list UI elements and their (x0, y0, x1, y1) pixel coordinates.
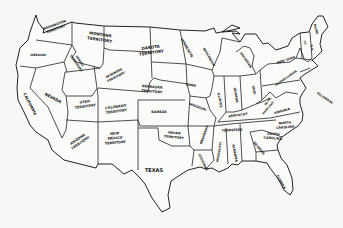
state-label-text: KANSAS (151, 110, 167, 114)
label-kansas: KANSAS (151, 110, 167, 114)
label-texas: TEXAS (145, 167, 164, 173)
label-oregon: OREGON (30, 53, 46, 57)
us-territories-map: WASHINGTONTERRITORYOREGONIDAHOTERRITORYM… (0, 0, 343, 228)
label-vermont: VT. (303, 40, 308, 45)
state-label-text: OREGON (30, 53, 46, 57)
state-label-text: VT. (303, 40, 308, 45)
state-label-text: TEXAS (145, 167, 164, 173)
